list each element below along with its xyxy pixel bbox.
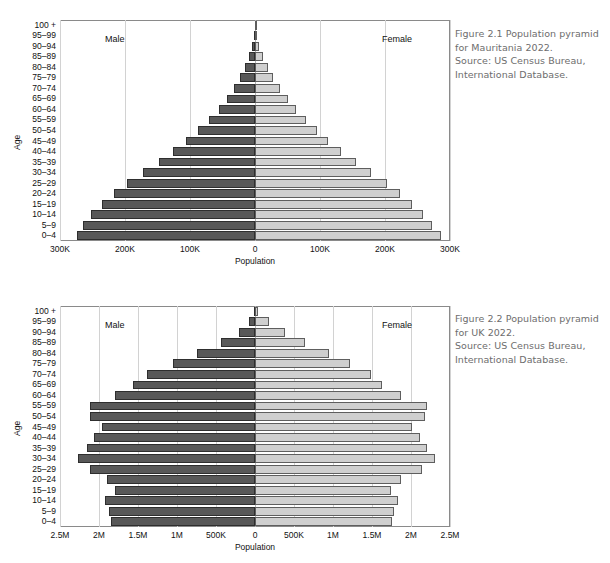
bar-male bbox=[115, 391, 255, 400]
bar-male bbox=[186, 137, 255, 146]
bar-female bbox=[255, 158, 356, 167]
pyramid-row bbox=[60, 84, 450, 93]
y-tick-label: 25–29 bbox=[32, 179, 56, 188]
bar-male bbox=[107, 475, 255, 484]
bar-male bbox=[77, 231, 255, 240]
bar-male bbox=[221, 338, 255, 347]
y-tick-label: 30–34 bbox=[32, 454, 56, 463]
bar-female bbox=[255, 402, 427, 411]
series-label-female: Female bbox=[382, 34, 412, 44]
bar-male bbox=[111, 517, 255, 526]
bar-female bbox=[255, 221, 432, 230]
bar-female bbox=[255, 328, 285, 337]
y-tick-label: 75–79 bbox=[32, 359, 56, 368]
bar-male bbox=[143, 168, 255, 177]
pyramid-row bbox=[60, 402, 450, 411]
bar-male bbox=[173, 147, 255, 156]
bar-male bbox=[87, 444, 255, 453]
figure-population-pyramid-mauritania: 100 +95–9990–9485–8980–8475–7970–7465–69… bbox=[0, 0, 610, 282]
bar-male bbox=[133, 381, 255, 390]
figure-caption-uk: Figure 2.2 Population pyramidfor UK 2022… bbox=[455, 312, 605, 366]
y-tick-label: 75–79 bbox=[32, 73, 56, 82]
bar-female bbox=[255, 433, 420, 442]
y-axis-age-ticks: 100 +95–9990–9485–8980–8475–7970–7465–69… bbox=[4, 306, 56, 527]
pyramid-row bbox=[60, 370, 450, 379]
x-tick-label: 0 bbox=[253, 530, 258, 540]
bar-male bbox=[102, 423, 255, 432]
bar-female bbox=[255, 137, 328, 146]
bar-male bbox=[114, 189, 255, 198]
bar-female bbox=[255, 21, 257, 30]
y-axis-title: Age bbox=[12, 421, 22, 436]
caption-line: for Mauritania 2022. bbox=[455, 41, 605, 55]
y-tick-label: 15–19 bbox=[32, 200, 56, 209]
x-tick-label: 500K bbox=[284, 530, 304, 540]
y-tick-label: 70–74 bbox=[32, 84, 56, 93]
caption-line: Source: US Census Bureau, bbox=[455, 339, 605, 353]
pyramid-row bbox=[60, 412, 450, 421]
y-tick-label: 30–34 bbox=[32, 168, 56, 177]
bar-female bbox=[255, 338, 305, 347]
y-tick-label: 20–24 bbox=[32, 475, 56, 484]
y-tick-label: 5–9 bbox=[42, 221, 56, 230]
bar-female bbox=[255, 359, 350, 368]
plot-mauritania bbox=[60, 20, 450, 241]
y-tick-label: 80–84 bbox=[32, 63, 56, 72]
caption-line: for UK 2022. bbox=[455, 326, 605, 340]
y-tick-label: 50–54 bbox=[32, 412, 56, 421]
pyramid-row bbox=[60, 423, 450, 432]
figure-caption-mauritania: Figure 2.1 Population pyramidfor Maurita… bbox=[455, 27, 605, 81]
y-tick-label: 0–4 bbox=[42, 231, 56, 240]
bar-male bbox=[109, 507, 255, 516]
bar-male bbox=[78, 454, 255, 463]
y-tick-label: 35–39 bbox=[32, 158, 56, 167]
bar-female bbox=[255, 454, 435, 463]
bar-female bbox=[255, 381, 382, 390]
pyramid-row bbox=[60, 52, 450, 61]
y-tick-label: 90–94 bbox=[32, 328, 56, 337]
pyramid-row bbox=[60, 168, 450, 177]
pyramid-row bbox=[60, 307, 450, 316]
pyramid-row bbox=[60, 179, 450, 188]
gridline bbox=[450, 20, 451, 241]
bar-female bbox=[255, 73, 273, 82]
y-tick-label: 100 + bbox=[34, 307, 56, 316]
bar-male bbox=[91, 210, 255, 219]
bar-female bbox=[255, 105, 296, 114]
bar-female bbox=[255, 517, 392, 526]
bar-male bbox=[227, 95, 255, 104]
pyramid-row bbox=[60, 465, 450, 474]
pyramid-row bbox=[60, 105, 450, 114]
y-tick-label: 55–59 bbox=[32, 401, 56, 410]
bar-female bbox=[255, 189, 400, 198]
bar-male bbox=[90, 402, 255, 411]
bar-female bbox=[255, 391, 401, 400]
pyramid-row bbox=[60, 189, 450, 198]
pyramid-row bbox=[60, 381, 450, 390]
x-tick-label: 1M bbox=[327, 530, 339, 540]
bar-female bbox=[255, 52, 263, 61]
bar-female bbox=[255, 210, 423, 219]
bar-female bbox=[255, 465, 422, 474]
pyramid-row bbox=[60, 210, 450, 219]
pyramid-row bbox=[60, 507, 450, 516]
caption-line: International Database. bbox=[455, 68, 605, 82]
x-tick-label: 100K bbox=[310, 244, 330, 254]
caption-line: Source: US Census Bureau, bbox=[455, 54, 605, 68]
y-tick-label: 85–89 bbox=[32, 52, 56, 61]
bar-male bbox=[219, 105, 255, 114]
pyramid-row bbox=[60, 517, 450, 526]
bar-female bbox=[255, 307, 258, 316]
pyramid-row bbox=[60, 73, 450, 82]
pyramid-row bbox=[60, 444, 450, 453]
y-tick-label: 25–29 bbox=[32, 465, 56, 474]
caption-line: Figure 2.1 Population pyramid bbox=[455, 27, 605, 41]
bar-female bbox=[255, 507, 394, 516]
y-tick-label: 10–14 bbox=[32, 210, 56, 219]
caption-line: Figure 2.2 Population pyramid bbox=[455, 312, 605, 326]
bar-female bbox=[255, 84, 280, 93]
bar-female bbox=[255, 444, 427, 453]
y-tick-label: 45–49 bbox=[32, 137, 56, 146]
bar-female bbox=[255, 168, 371, 177]
x-tick-label: 500K bbox=[206, 530, 226, 540]
